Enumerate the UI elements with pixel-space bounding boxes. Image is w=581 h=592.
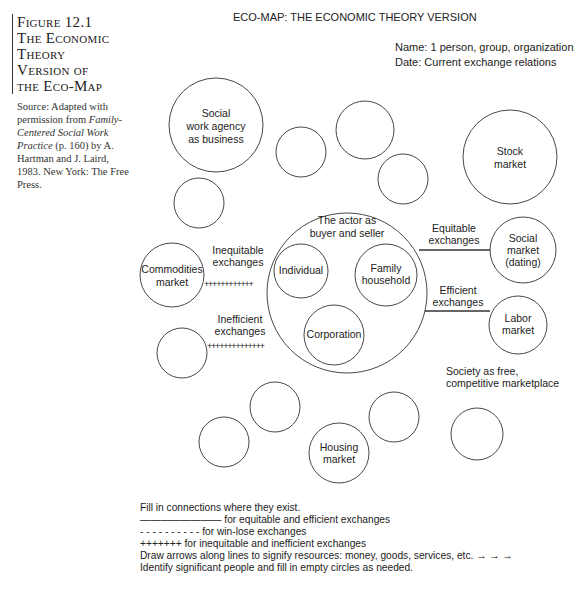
empty-circle — [199, 417, 249, 467]
connection-inefficient: ++++++++++++++ — [207, 341, 265, 351]
legend-line: - - - - - - - - - - for win-lose exchang… — [140, 526, 512, 538]
empty-circle — [276, 127, 326, 177]
connection-inequitable: ++++++++++++ — [204, 279, 254, 289]
label-equitable: Equitableexchanges — [429, 222, 480, 246]
empty-circle — [250, 382, 300, 432]
label-commodities-market: Commoditiesmarket — [141, 263, 202, 288]
legend-line: ———————— for equitable and efficient exc… — [140, 514, 512, 526]
empty-circle — [336, 101, 394, 159]
node-commodities-market — [140, 243, 204, 307]
label-social-work-agency: Socialwork agencyas business — [186, 107, 247, 145]
label-labor-market: Labormarket — [502, 312, 534, 336]
label-inequitable: Inequitableexchanges — [212, 244, 264, 268]
label-inefficient: Inefficientexchanges — [215, 313, 266, 337]
node-stock-market — [463, 110, 557, 204]
label-corporation: Corporation — [307, 328, 362, 340]
label-family-household: Familyhousehold — [362, 262, 411, 286]
empty-circle — [174, 178, 224, 228]
empty-circle — [451, 408, 503, 460]
legend: Fill in connections where they exist. ——… — [140, 502, 512, 574]
label-social-market: Socialmarket(dating) — [505, 232, 541, 268]
empty-circle — [378, 154, 428, 204]
label-housing-market: Housingmarket — [320, 441, 359, 465]
label-efficient: Efficientexchanges — [433, 284, 484, 308]
label-stock-market: Stockmarket — [494, 145, 526, 170]
empty-circle — [369, 392, 419, 442]
empty-circle — [157, 328, 207, 378]
label-society: Society as free,competitive marketplace — [446, 365, 559, 389]
label-individual: Individual — [279, 264, 323, 276]
legend-line: Identify significant people and fill in … — [140, 562, 512, 574]
label-actor: The actor asbuyer and seller — [310, 214, 385, 239]
legend-line: Fill in connections where they exist. — [140, 502, 512, 514]
legend-line: Draw arrows along lines to signify resou… — [140, 550, 512, 562]
legend-line: +++++++ for inequitable and inefficient … — [140, 538, 512, 550]
